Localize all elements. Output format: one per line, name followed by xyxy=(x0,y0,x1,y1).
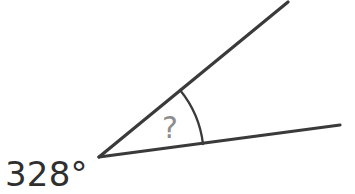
exterior-angle-label: 328° xyxy=(5,154,88,194)
unknown-angle-label: ? xyxy=(162,110,178,145)
upper-ray-line xyxy=(99,2,288,157)
angle-diagram-figure: ? 328° xyxy=(0,0,355,194)
lower-ray-line xyxy=(99,125,340,157)
angle-diagram-canvas: ? 328° xyxy=(0,0,355,194)
interior-angle-arc xyxy=(180,90,203,144)
